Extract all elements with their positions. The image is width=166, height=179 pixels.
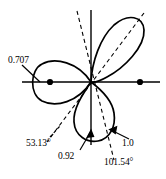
polar-pattern-plot [0,0,166,179]
arrowhead-092 [87,130,93,137]
lower-lobe [74,82,114,141]
label-amplitude-0707: 0.707 [8,56,29,66]
dashed-ray-53deg [47,13,144,142]
label-angle-53-13: 53.13° [26,139,51,149]
label-angle-101-54: 101.54° [104,158,133,168]
label-amplitude-10: 1.0 [122,139,134,149]
radiation-pattern-figure: 0.707 53.13° 0.92 1.0 101.54° [0,0,166,179]
right-element-dot [137,79,143,85]
leader-5313 [50,126,60,137]
label-amplitude-092: 0.92 [58,152,74,162]
left-element-dot [47,79,53,85]
